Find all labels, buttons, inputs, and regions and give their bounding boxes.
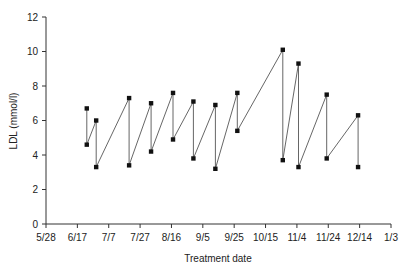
x-tick-label: 11/24 [316,232,341,243]
plot-area [85,48,361,171]
data-point-marker [235,129,239,133]
data-point-marker [94,118,98,122]
y-tick-label: 0 [32,219,38,230]
data-point-marker [85,106,89,110]
data-point-marker [281,158,285,162]
data-point-marker [171,91,175,95]
x-tick-label: 9/25 [224,232,244,243]
x-tick-label: 11/4 [288,232,307,243]
y-tick-label: 6 [32,115,38,126]
y-tick-label: 10 [27,46,39,57]
y-axis-label: LDL (mmol/l) [8,93,19,150]
x-tick-label: 7/27 [130,232,150,243]
y-tick-label: 8 [32,81,38,92]
data-point-marker [191,156,195,160]
x-axis-label: Treatment date [184,253,252,264]
data-point-marker [94,165,98,169]
data-line [87,50,358,169]
x-tick-label: 12/14 [347,232,372,243]
data-point-marker [127,163,131,167]
axes: 0246810125/286/177/77/278/169/59/2510/15… [27,12,399,244]
x-tick-label: 6/17 [68,232,88,243]
x-tick-label: 10/15 [253,232,278,243]
data-point-marker [325,156,329,160]
data-point-marker [191,99,195,103]
data-point-marker [235,91,239,95]
data-point-marker [213,167,217,171]
x-tick-label: 7/7 [102,232,116,243]
data-point-marker [85,142,89,146]
data-point-marker [127,96,131,100]
y-tick-label: 12 [27,12,39,23]
x-tick-label: 1/3 [384,232,398,243]
data-point-marker [356,165,360,169]
data-point-marker [325,92,329,96]
x-tick-label: 5/28 [36,232,56,243]
data-point-marker [296,61,300,65]
x-tick-label: 9/5 [196,232,210,243]
data-point-marker [213,103,217,107]
data-point-marker [171,137,175,141]
data-point-marker [281,48,285,52]
data-point-marker [149,101,153,105]
data-point-marker [149,149,153,153]
data-point-marker [356,113,360,117]
y-tick-label: 4 [32,150,38,161]
ldl-chart: 0246810125/286/177/77/278/169/59/2510/15… [0,0,408,275]
x-tick-label: 8/16 [162,232,182,243]
data-point-marker [296,165,300,169]
y-tick-label: 2 [32,184,38,195]
